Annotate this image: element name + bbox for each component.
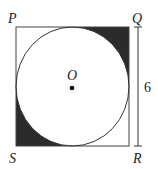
center-point-o xyxy=(70,86,75,91)
dimension-line xyxy=(134,27,142,146)
shaded-region-q xyxy=(72,27,129,87)
geometry-diagram: P Q R S O 6 xyxy=(0,0,158,169)
shaded-region-s xyxy=(16,87,72,146)
label-s: S xyxy=(9,151,16,166)
label-q: Q xyxy=(132,11,142,26)
label-p: P xyxy=(7,11,17,26)
label-r: R xyxy=(132,151,142,166)
side-length-label: 6 xyxy=(144,80,151,95)
label-o: O xyxy=(67,68,77,83)
